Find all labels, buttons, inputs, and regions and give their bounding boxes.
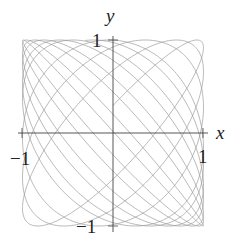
x-tick-label-neg: −1 xyxy=(10,148,30,169)
x-tick-label-pos: 1 xyxy=(198,146,208,167)
y-tick-label-pos: 1 xyxy=(92,30,102,51)
y-axis-label: y xyxy=(104,5,115,26)
y-tick-label-neg: −1 xyxy=(76,216,96,237)
lissajous-plot: x y −1 1 1 −1 xyxy=(0,0,239,237)
x-axis-label: x xyxy=(215,122,225,143)
